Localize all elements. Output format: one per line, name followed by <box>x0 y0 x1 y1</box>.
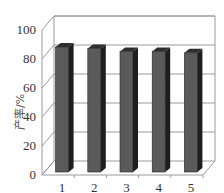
bar <box>120 47 138 172</box>
y-tick-label: 80 <box>23 51 36 66</box>
bars <box>56 43 203 172</box>
x-axis-ticks: 12345 <box>59 175 203 193</box>
x-tick-label: 4 <box>155 180 162 193</box>
bar-chart: 020406080100 12345 产率/% <box>0 0 224 193</box>
y-tick-label: 0 <box>30 167 37 182</box>
y-tick-label: 60 <box>23 80 36 95</box>
x-tick-label: 3 <box>123 180 130 193</box>
x-tick-label: 2 <box>91 180 98 193</box>
bar <box>184 49 202 172</box>
x-tick-label: 1 <box>59 180 66 193</box>
x-tick-label: 5 <box>188 180 195 193</box>
y-axis-label: 产率/% <box>13 94 27 130</box>
y-tick-label: 20 <box>23 138 36 153</box>
y-tick-label: 100 <box>17 22 37 37</box>
bar <box>152 47 170 172</box>
bar <box>88 45 106 173</box>
bar <box>56 43 74 172</box>
